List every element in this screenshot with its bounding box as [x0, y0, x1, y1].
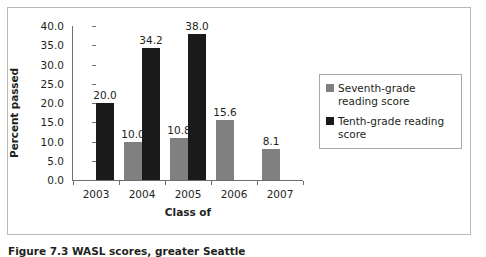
x-axis-tick-mark	[165, 181, 166, 185]
bar-slot: 34.2	[142, 26, 160, 180]
x-axis-tick-mark	[257, 181, 258, 185]
x-axis-tick-mark	[119, 181, 120, 185]
x-axis-tick-label: 2006	[211, 188, 257, 201]
bar[interactable]: 10.0	[124, 142, 142, 181]
x-axis-tick-mark	[211, 181, 212, 185]
bar[interactable]: 20.0	[96, 103, 114, 180]
y-axis-tick-label: 30.0	[41, 60, 64, 70]
bar[interactable]: 10.8	[170, 138, 188, 180]
bar-slot	[78, 26, 96, 180]
bar-group: 20.0	[73, 26, 119, 180]
chart-legend: Seventh-grade reading scoreTenth-grade r…	[319, 74, 462, 149]
y-axis-title-label: Percent passed	[8, 58, 20, 168]
bar[interactable]: 34.2	[142, 48, 160, 180]
legend-swatch-icon	[326, 117, 334, 125]
x-axis-tick-label: 2004	[119, 188, 165, 201]
bar-slot: 38.0	[188, 26, 206, 180]
y-axis-tick-label: 20.0	[41, 98, 64, 108]
bar-slot	[280, 26, 298, 180]
y-axis-tick-label: 35.0	[41, 40, 64, 50]
bar-slot: 10.0	[124, 26, 142, 180]
figure-caption: Figure 7.3 WASL scores, greater Seattle	[8, 245, 438, 257]
y-axis-tick-label: 10.0	[41, 137, 64, 147]
legend-item-label: Tenth-grade reading score	[338, 115, 454, 141]
bar-slot: 20.0	[96, 26, 114, 180]
bar[interactable]: 8.1	[262, 149, 280, 180]
bar-slot: 15.6	[216, 26, 234, 180]
bar-slot	[234, 26, 252, 180]
x-axis-tick-label: 2003	[73, 188, 119, 201]
bar-value-label: 38.0	[185, 21, 208, 32]
bar-value-label: 8.1	[263, 136, 280, 147]
bar-group: 10.838.0	[165, 26, 211, 180]
bar-chart: Percent passed 40.035.030.025.020.015.01…	[0, 0, 486, 257]
legend-swatch-icon	[326, 84, 334, 92]
bar[interactable]: 38.0	[188, 34, 206, 180]
x-axis-tick-labels: 20032004200520062007	[73, 188, 303, 204]
y-axis-tick-labels: 40.035.030.025.020.015.010.05.00.0	[24, 26, 68, 180]
y-axis-title: Percent passed	[8, 0, 20, 58]
bar-slot: 8.1	[262, 26, 280, 180]
x-axis-tick-label: 2007	[257, 188, 303, 201]
plot-area: 20.010.034.210.838.015.68.1	[73, 26, 303, 180]
x-axis-tick-mark	[73, 181, 74, 185]
figure-root: Percent passed 40.035.030.025.020.015.01…	[0, 0, 486, 257]
bar-group: 10.034.2	[119, 26, 165, 180]
bar-value-label: 20.0	[93, 90, 116, 101]
bar-value-label: 34.2	[139, 35, 162, 46]
x-axis-line	[72, 180, 303, 181]
y-axis-tick-label: 5.0	[47, 156, 64, 166]
x-axis-tick-mark	[303, 181, 304, 185]
bar[interactable]: 15.6	[216, 120, 234, 180]
x-axis-tick-label: 2005	[165, 188, 211, 201]
y-axis-tick-label: 40.0	[41, 21, 64, 31]
bar-group: 15.6	[211, 26, 257, 180]
y-axis-tick-label: 0.0	[47, 175, 64, 185]
bar-group: 8.1	[257, 26, 303, 180]
legend-item[interactable]: Tenth-grade reading score	[326, 115, 454, 141]
x-axis-title: Class of	[73, 206, 303, 218]
legend-item-label: Seventh-grade reading score	[338, 82, 454, 108]
bar-slot: 10.8	[170, 26, 188, 180]
y-axis-tick-label: 15.0	[41, 117, 64, 127]
legend-item[interactable]: Seventh-grade reading score	[326, 82, 454, 108]
y-axis-tick-label: 25.0	[41, 79, 64, 89]
